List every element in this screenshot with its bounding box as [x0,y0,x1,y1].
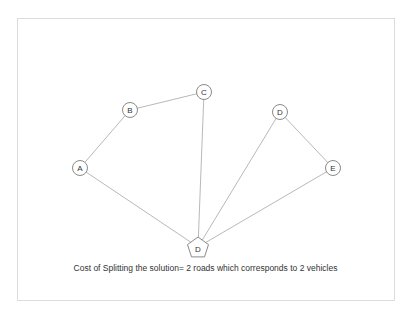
node-label: C [201,88,207,97]
edge-depot-A [80,168,198,247]
node-label: D [277,108,283,117]
edge-A-B [80,110,130,168]
edge-depot-D1 [198,112,280,247]
node-e: E [326,161,341,176]
edge-E-depot [198,168,333,247]
node-label: D [195,245,201,254]
node-label: E [330,164,335,173]
node-a: A [73,161,88,176]
node-label: B [127,106,132,115]
node-c: C [197,85,212,100]
diagram-caption: Cost of Splitting the solution= 2 roads … [0,263,411,273]
edge-C-depot [198,92,204,247]
depot-node: D [188,237,209,257]
node-d1: D [273,105,288,120]
edge-B-C [130,92,204,110]
nodes-layer: ABCDED [73,85,341,257]
node-b: B [123,103,138,118]
edges-layer [80,92,333,247]
node-label: A [77,164,83,173]
edge-D1-E [280,112,333,168]
